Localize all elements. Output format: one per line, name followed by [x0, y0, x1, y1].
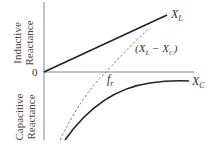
capacitive-reactance-axis-label: Capacitive Reactance	[13, 85, 39, 145]
xc-label: XC	[191, 74, 205, 90]
capacitive-label-line1: Capacitive	[13, 85, 25, 145]
net-reactance-label: (XL − XC)	[135, 42, 178, 57]
inductive-reactance-axis-label: Inductive Reactance	[11, 13, 37, 73]
inductive-label-line1: Inductive	[11, 13, 23, 73]
xl-label: XL	[170, 7, 183, 23]
resonance-frequency-label: fr	[107, 72, 114, 88]
capacitive-reactance-curve	[65, 81, 189, 140]
inductive-label-line2: Reactance	[23, 13, 35, 73]
capacitive-label-line2: Reactance	[25, 85, 37, 145]
